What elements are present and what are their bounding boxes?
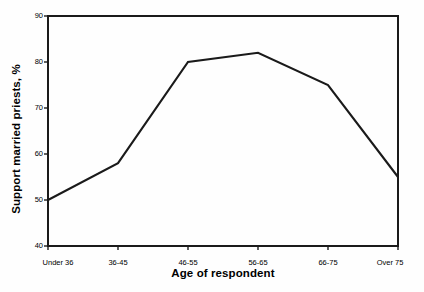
data-series-line [48,53,398,200]
plot-frame [48,16,398,246]
line-chart: Support married priests, % 90 80 70 60 5… [0,0,424,292]
plot-area [0,0,424,292]
